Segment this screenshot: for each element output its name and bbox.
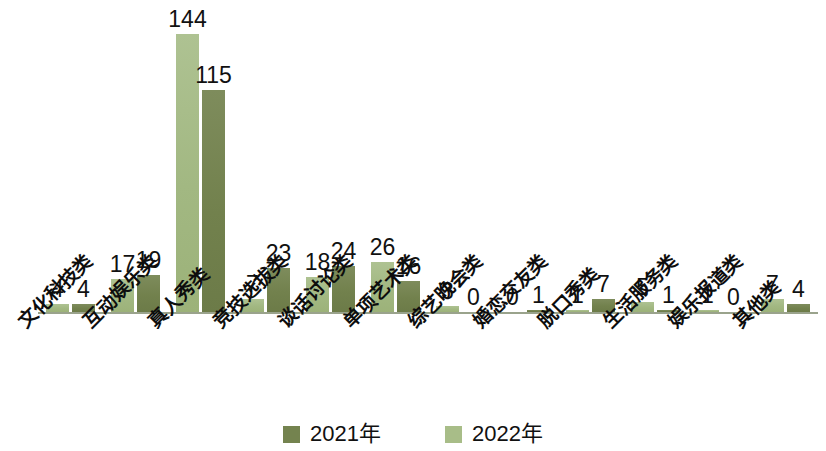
- legend-item[interactable]: 2021年: [283, 423, 381, 445]
- bar-value-label: 1: [532, 284, 545, 307]
- bar-value-label: 4: [792, 278, 805, 301]
- legend-item[interactable]: 2022年: [445, 423, 543, 445]
- bar-value-label: 144: [168, 8, 206, 31]
- bar-value-label: 1: [662, 284, 675, 307]
- bar[interactable]: [787, 304, 810, 312]
- legend-swatch-icon: [445, 426, 462, 443]
- legend-label: 2021年: [310, 423, 381, 445]
- legend-swatch-icon: [283, 426, 300, 443]
- bar-item[interactable]: 4: [787, 304, 810, 312]
- bar-value-label: 115: [195, 64, 232, 87]
- legend-label: 2022年: [472, 423, 543, 445]
- chart-legend: 2021年2022年: [0, 423, 826, 445]
- bar-value-label: 0: [727, 286, 740, 309]
- bar-chart: 44171914411572318242616300117511074 文化科技…: [0, 0, 826, 451]
- bar-value-label: 0: [467, 286, 480, 309]
- bar-value-label: 26: [370, 236, 396, 259]
